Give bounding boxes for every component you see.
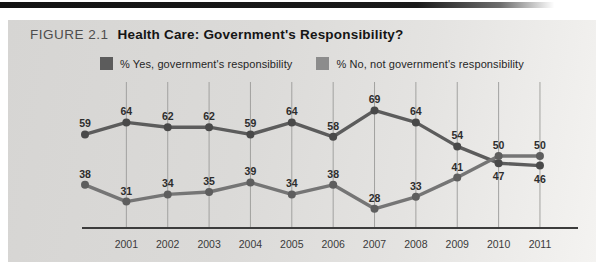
data-point-label-no: 31: [121, 185, 133, 197]
data-point-marker-yes: [205, 123, 213, 131]
x-tick-label: 2006: [321, 238, 345, 250]
data-point-marker-yes: [495, 159, 503, 167]
data-point-label-yes: 54: [451, 129, 463, 141]
data-point-label-no: 41: [451, 161, 463, 173]
series-line-yes: [85, 110, 540, 165]
x-tick-label: 2003: [197, 238, 221, 250]
data-point-marker-no: [246, 178, 254, 186]
data-point-label-yes: 69: [369, 93, 381, 105]
x-tick-label: 2008: [404, 238, 428, 250]
data-point-label-yes: 62: [162, 110, 174, 122]
data-point-marker-no: [412, 193, 420, 201]
data-point-marker-yes: [288, 118, 296, 126]
data-point-label-yes: 64: [121, 105, 133, 117]
data-point-label-yes: 47: [493, 170, 505, 182]
data-point-label-yes: 59: [79, 117, 91, 129]
data-point-label-no: 38: [79, 168, 91, 180]
data-point-label-yes: 58: [327, 120, 339, 132]
data-point-marker-yes: [412, 118, 420, 126]
data-point-label-no: 50: [534, 139, 546, 151]
data-point-label-no: 39: [245, 165, 257, 177]
data-point-marker-yes: [536, 162, 544, 170]
x-tick-label: 2009: [446, 238, 470, 250]
series-line-no: [85, 156, 540, 209]
data-point-marker-yes: [329, 133, 337, 141]
data-point-marker-yes: [164, 123, 172, 131]
data-point-marker-no: [122, 198, 130, 206]
data-point-marker-yes: [81, 130, 89, 138]
x-tick-label: 2007: [363, 238, 387, 250]
data-point-label-no: 35: [203, 175, 215, 187]
x-tick-label: 2005: [280, 238, 304, 250]
data-point-marker-yes: [453, 142, 461, 150]
data-point-marker-yes: [246, 130, 254, 138]
x-tick-label: 2002: [156, 238, 180, 250]
data-point-label-no: 50: [493, 139, 505, 151]
data-point-marker-no: [81, 181, 89, 189]
data-point-label-yes: 64: [410, 105, 422, 117]
data-point-label-no: 33: [410, 180, 422, 192]
data-point-marker-no: [371, 205, 379, 213]
data-point-marker-yes: [371, 106, 379, 114]
data-point-label-yes: 59: [245, 117, 257, 129]
data-point-label-yes: 64: [286, 105, 298, 117]
scanned-page: FIGURE 2.1Health Care: Government's Resp…: [0, 0, 596, 262]
x-tick-label: 2004: [239, 238, 263, 250]
data-point-label-no: 38: [327, 168, 339, 180]
x-tick-label: 2011: [529, 238, 552, 250]
data-point-marker-no: [329, 181, 337, 189]
x-tick-label: 2010: [487, 238, 511, 250]
data-point-marker-yes: [122, 118, 130, 126]
x-tick-label: 2001: [115, 238, 139, 250]
data-point-marker-no: [453, 174, 461, 182]
data-point-marker-no: [205, 188, 213, 196]
line-chart: 2001200220032004200520062007200820092010…: [0, 0, 596, 262]
data-point-label-yes: 46: [534, 173, 546, 185]
data-point-marker-no: [164, 190, 172, 198]
data-point-marker-no: [495, 152, 503, 160]
data-point-label-no: 34: [286, 177, 298, 189]
data-point-label-yes: 62: [203, 110, 215, 122]
data-point-label-no: 28: [369, 192, 381, 204]
data-point-marker-no: [288, 190, 296, 198]
data-point-label-no: 34: [162, 177, 174, 189]
data-point-marker-no: [536, 152, 544, 160]
